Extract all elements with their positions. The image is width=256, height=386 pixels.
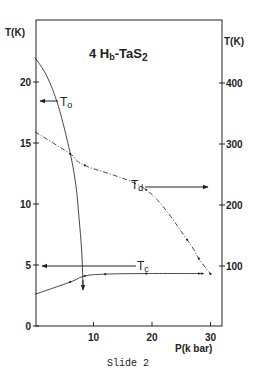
- right-axis-label: T(K): [224, 36, 244, 47]
- data-point: [69, 153, 71, 155]
- left-y-tick-label: 15: [20, 138, 32, 149]
- left-y-tick-label: 10: [20, 199, 32, 210]
- x-tick-label: 10: [88, 332, 100, 343]
- left-y-tick-label: 20: [20, 77, 32, 88]
- chart-title: 4 Hb-TaS2: [89, 46, 148, 63]
- x-tick-label: 20: [146, 332, 158, 343]
- left-y-tick-label: 0: [25, 321, 31, 332]
- data-point: [145, 189, 147, 191]
- data-point: [69, 281, 71, 283]
- left-y-tick-label: 5: [25, 260, 31, 271]
- data-point: [84, 275, 86, 277]
- data-point: [104, 273, 106, 275]
- series-group: [35, 58, 212, 295]
- axis-tick-labels: 10203005101520100200300400: [20, 77, 243, 343]
- series-td-line: [35, 132, 211, 274]
- data-point: [84, 164, 86, 166]
- right-y-tick-label: 200: [226, 200, 243, 211]
- right-y-tick-label: 100: [226, 261, 243, 272]
- data-point: [186, 239, 188, 241]
- to-label: To: [60, 95, 72, 110]
- slide-caption: Slide 2: [0, 358, 256, 369]
- data-point: [198, 258, 200, 260]
- x-tick-label: 30: [205, 332, 217, 343]
- tc-label: Tc: [137, 259, 149, 274]
- right-y-tick-label: 400: [226, 78, 243, 89]
- data-point: [201, 272, 203, 274]
- right-y-tick-label: 300: [226, 139, 243, 150]
- left-axis-label: T(K): [5, 27, 25, 38]
- data-point: [198, 272, 200, 274]
- phase-diagram-chart: 10203005101520100200300400 T(K) T(K) P(k…: [0, 0, 256, 386]
- plot-frame: [36, 20, 222, 326]
- x-axis-label: P(k bar): [175, 343, 212, 354]
- series-to-line: [35, 58, 83, 287]
- td-label: Td: [131, 178, 143, 193]
- data-point: [209, 273, 211, 275]
- series-tc-line: [35, 273, 204, 294]
